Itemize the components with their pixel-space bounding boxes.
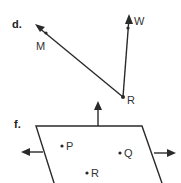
- arrowhead-w-icon: [125, 14, 133, 24]
- figure-f: f. P Q R: [14, 101, 176, 183]
- vertex-r-dot: [121, 95, 125, 99]
- point-r-label: R: [91, 167, 99, 179]
- point-q: Q: [118, 147, 133, 159]
- point-m-dot: [44, 31, 47, 34]
- point-m-label: M: [36, 40, 45, 52]
- point-r: R: [85, 167, 99, 179]
- point-q-label: Q: [124, 147, 133, 159]
- figure-d: d. M W R: [12, 14, 145, 106]
- point-w-label: W: [134, 15, 145, 27]
- point-w-dot: [126, 26, 129, 29]
- geometry-diagram: d. M W R f.: [0, 0, 181, 183]
- ray-rw: W: [123, 14, 145, 97]
- figure-d-label: d.: [12, 18, 22, 30]
- vertex-r-label: R: [127, 94, 135, 106]
- ray-rm: M: [35, 24, 123, 97]
- plane-outline: [36, 126, 163, 183]
- figure-f-label: f.: [14, 118, 21, 130]
- point-p: P: [60, 140, 73, 152]
- point-p-label: P: [66, 140, 73, 152]
- arrow-left-icon: [21, 148, 43, 156]
- arrow-right-icon: [154, 149, 176, 157]
- arrow-up-icon: [94, 101, 102, 126]
